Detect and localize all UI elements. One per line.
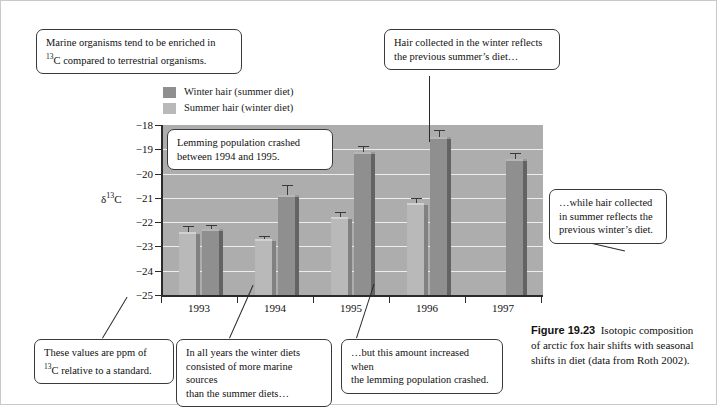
error-bar-cap	[282, 185, 293, 186]
bar-shadow	[219, 229, 223, 295]
x-axis-tick-label-1995: 1995	[313, 303, 389, 314]
bar-top-highlight	[407, 203, 428, 205]
x-axis-tick	[313, 297, 314, 303]
callout-summer-hair-note-line3: previous winter’s diet.	[559, 223, 657, 237]
callout-summer-hair-note-line2: in summer reflects the	[559, 210, 657, 224]
callout-marine-organisms-line1: Marine organisms tend to be enriched in	[46, 36, 232, 50]
bar-top-highlight	[506, 159, 527, 161]
bar-top-highlight	[179, 232, 200, 234]
legend-swatch-summer-hair	[163, 103, 176, 114]
callout-marine-organisms-line2: 13C compared to terrestrial organisms.	[46, 50, 232, 67]
superscript-13: 13	[46, 52, 54, 61]
y-axis-title: δ13C	[101, 191, 122, 205]
callout-winter-hair-note-line1: Hair collected in the winter reflects	[394, 36, 550, 50]
bar-shadow	[196, 232, 200, 295]
callout-amount-increased-line2: the lemming population crashed.	[351, 373, 493, 387]
leader-line-ppm-note	[102, 297, 128, 339]
callout-amount-increased-line1: …but this amount increased when	[351, 346, 493, 373]
y-axis-tick-label: −23	[136, 241, 153, 252]
bar-shadow	[523, 159, 527, 295]
bar-top-highlight	[278, 195, 299, 197]
bar-shadow	[272, 239, 276, 295]
bar-top-highlight	[255, 239, 276, 241]
callout-marine-sources-line1: In all years the winter diets	[186, 346, 322, 360]
callout-ppm-note: These values are ppm of 13C relative to …	[34, 339, 174, 384]
callout-ppm-note-line1: These values are ppm of	[44, 346, 164, 360]
callout-lemming-crash: Lemming population crashed between 1994 …	[167, 129, 333, 170]
y-axis-title-element: C	[114, 193, 121, 205]
x-axis-tick-label-1994: 1994	[237, 303, 313, 314]
x-axis-tick-label-1997: 1997	[465, 303, 541, 314]
bar-winter-hair-1996	[430, 137, 451, 295]
bar-winter-hair-1994	[278, 195, 299, 295]
superscript-13: 13	[44, 362, 52, 371]
error-bar-cap	[259, 236, 270, 237]
legend-label-winter-hair: Winter hair (summer diet)	[184, 85, 294, 99]
bar-top-highlight	[331, 217, 352, 219]
x-axis-tick-label-1996: 1996	[389, 303, 465, 314]
x-axis-tick	[465, 297, 466, 303]
callout-summer-hair-note: …while hair collected in summer reflects…	[549, 189, 667, 244]
callout-winter-hair-note-line2: the previous summer’s diet…	[394, 50, 550, 64]
error-bar-cap	[206, 225, 217, 226]
y-axis-tick-label: −24	[136, 266, 153, 277]
error-bar-cap	[358, 146, 369, 147]
gridline	[163, 174, 543, 175]
callout-amount-increased: …but this amount increased when the lemm…	[341, 339, 503, 394]
bar-shadow	[295, 195, 299, 295]
leader-line-winter-hair-note	[429, 76, 430, 142]
x-axis-line	[161, 295, 543, 297]
x-axis-tick	[161, 297, 162, 303]
error-bar-winter-hair-1996	[439, 130, 440, 137]
error-bar-winter-hair-1994	[287, 185, 288, 196]
figure-number: Figure 19.23	[531, 324, 595, 336]
callout-winter-hair-note: Hair collected in the winter reflects th…	[384, 29, 560, 70]
bar-shadow	[447, 137, 451, 295]
y-axis-tick-label: −18	[136, 120, 153, 131]
x-axis-tick	[541, 297, 542, 303]
callout-ppm-note-line2: 13C relative to a standard.	[44, 360, 164, 377]
bar-summer-hair-1993	[179, 232, 200, 295]
callout-lemming-crash-line1: Lemming population crashed	[177, 136, 323, 150]
x-axis-tick-label-1993: 1993	[161, 303, 237, 314]
error-bar-cap	[335, 212, 346, 213]
bar-summer-hair-1996	[407, 203, 428, 295]
error-bar-cap	[183, 226, 194, 227]
bar-shadow	[348, 217, 352, 295]
legend-swatch-winter-hair	[163, 87, 176, 98]
callout-marine-sources-line2: consisted of more marine sources	[186, 360, 322, 387]
y-axis-tick-label: −25	[136, 290, 153, 301]
callout-marine-organisms: Marine organisms tend to be enriched in …	[36, 29, 242, 74]
y-axis-tick-label: −21	[136, 193, 153, 204]
error-bar-cap	[510, 153, 521, 154]
y-axis-tick-label: −20	[136, 169, 153, 180]
bar-winter-hair-1995	[354, 152, 375, 295]
callout-marine-organisms-line2-text: C compared to terrestrial organisms.	[54, 54, 207, 65]
legend-item-summer-hair: Summer hair (winter diet)	[163, 101, 294, 115]
y-axis-tick-label: −19	[136, 144, 153, 155]
gridline	[163, 222, 543, 223]
x-axis-tick	[237, 297, 238, 303]
error-bar-cap	[434, 130, 445, 131]
gridline	[163, 198, 543, 199]
x-axis-tick	[389, 297, 390, 303]
bar-winter-hair-1997	[506, 159, 527, 295]
bar-top-highlight	[430, 137, 451, 139]
callout-lemming-crash-line2: between 1994 and 1995.	[177, 150, 323, 164]
figure-caption: Figure 19.23 Isotopic composition of arc…	[531, 323, 696, 368]
callout-marine-sources-line3: than the summer diets…	[186, 387, 322, 401]
bar-top-highlight	[202, 229, 223, 231]
bar-summer-hair-1995	[331, 217, 352, 295]
bar-shadow	[371, 152, 375, 295]
bar-top-highlight	[354, 152, 375, 154]
callout-marine-sources: In all years the winter diets consisted …	[176, 339, 332, 407]
y-axis-tick-label: −22	[136, 217, 153, 228]
legend-label-summer-hair: Summer hair (winter diet)	[184, 101, 293, 115]
chart-legend: Winter hair (summer diet) Summer hair (w…	[163, 85, 294, 117]
callout-summer-hair-note-line1: …while hair collected	[559, 196, 657, 210]
callout-ppm-note-line2-text: C relative to a standard.	[52, 364, 152, 375]
y-axis-title-superscript: 13	[106, 191, 114, 200]
bar-shadow	[424, 203, 428, 295]
error-bar-cap	[411, 198, 422, 199]
